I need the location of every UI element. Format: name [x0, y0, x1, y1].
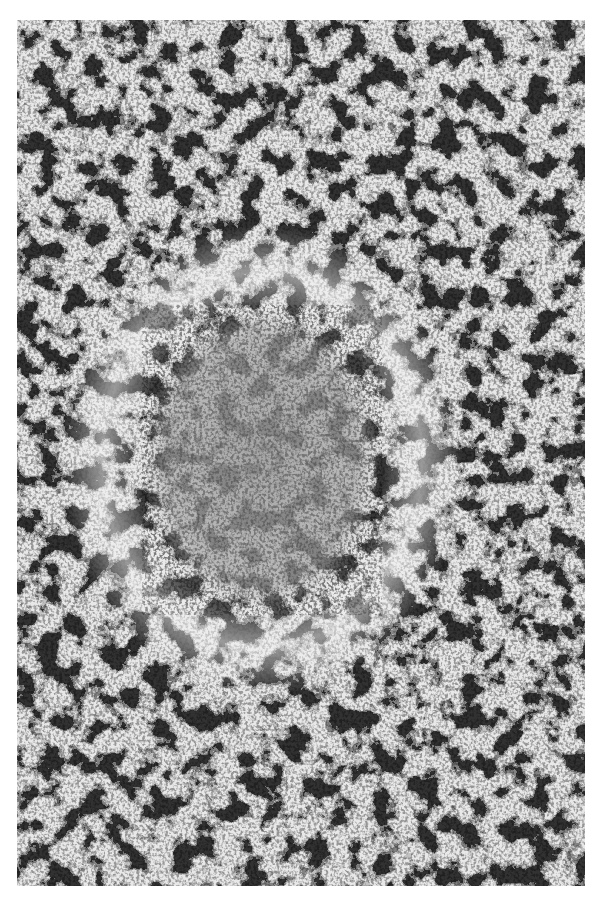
tissue-texture [17, 20, 585, 886]
histology-micrograph [17, 20, 585, 886]
nodule-grain [142, 305, 382, 615]
